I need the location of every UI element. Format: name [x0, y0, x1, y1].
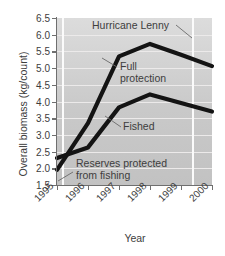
y-axis-line — [56, 17, 57, 186]
leader-line-reserves-protected — [58, 172, 73, 181]
x-axis-tick — [212, 186, 213, 190]
annotation-hurricane-lenny: Hurricane Lenny — [92, 20, 169, 32]
annotation-full-protection: Full protection — [120, 61, 166, 84]
leader-line-fished — [105, 116, 121, 127]
x-axis-title: Year — [57, 232, 213, 244]
annotation-leader-lines — [0, 0, 225, 256]
leader-line-full-protection — [102, 58, 117, 67]
chart-figure: Overall biomass (kg/count) 6.5 6.0 5.5 5… — [0, 0, 225, 256]
annotation-line-2: from fishing — [76, 170, 167, 182]
x-axis-tick — [181, 186, 182, 190]
x-axis-tick — [88, 186, 89, 190]
annotation-reserves-protected: Reserves protected from fishing — [76, 158, 167, 181]
x-axis-tick — [119, 186, 120, 190]
annotation-line-1: Reserves protected — [76, 158, 167, 170]
annotation-fished: Fished — [123, 121, 155, 133]
x-axis-tick — [57, 186, 58, 190]
annotation-line-2: protection — [120, 73, 166, 85]
x-axis-tick — [150, 186, 151, 190]
leader-line-hurricane-lenny — [176, 25, 192, 38]
annotation-line-1: Full — [120, 61, 166, 73]
